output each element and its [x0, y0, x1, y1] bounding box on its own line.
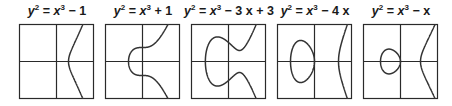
- panel-title: y2 = x3 − x: [341, 4, 452, 18]
- equation-rest: − x: [409, 4, 430, 18]
- equals: =: [125, 4, 139, 18]
- curve-plot: [363, 24, 438, 99]
- equals: =: [39, 4, 53, 18]
- curve-plot: [105, 24, 180, 99]
- x-var: x: [210, 4, 217, 18]
- y-var: y: [28, 4, 35, 18]
- curve-plot: [191, 24, 266, 99]
- equals: =: [383, 4, 397, 18]
- y-var: y: [372, 4, 379, 18]
- curve-plot: [277, 24, 352, 99]
- equals: =: [292, 4, 306, 18]
- y-var: y: [114, 4, 121, 18]
- equals: =: [195, 4, 209, 18]
- y-var: y: [281, 4, 288, 18]
- y-var: y: [184, 4, 191, 18]
- curve-plot: [19, 24, 94, 99]
